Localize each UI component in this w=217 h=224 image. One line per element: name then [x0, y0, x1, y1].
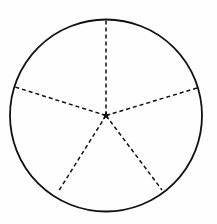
radius-lower-left-line — [58, 116, 106, 193]
radius-upper-left-line — [15, 87, 106, 116]
figure-root — [0, 0, 217, 224]
radius-upper-right-line — [106, 88, 197, 116]
radius-lower-right-line — [106, 116, 162, 191]
radii-group — [15, 19, 197, 192]
circle-sector-diagram — [0, 0, 217, 224]
